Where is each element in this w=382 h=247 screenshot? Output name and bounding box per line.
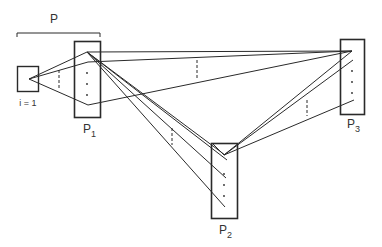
bracket-label: P bbox=[50, 12, 58, 26]
node-i1-label: i = 1 bbox=[19, 98, 36, 108]
node-i1-box bbox=[18, 67, 39, 92]
node-p2-label: P2 bbox=[219, 223, 232, 240]
edges-p1-p2 bbox=[87, 52, 227, 207]
diagram-canvas: P i = 1 P1 P3 P2 bbox=[0, 0, 382, 247]
node-p3-label: P3 bbox=[347, 117, 360, 134]
node-p1-label: P1 bbox=[83, 122, 96, 139]
bracket-p bbox=[17, 33, 100, 37]
dashed-markers bbox=[59, 60, 307, 145]
edges-p2-p3 bbox=[212, 51, 354, 155]
